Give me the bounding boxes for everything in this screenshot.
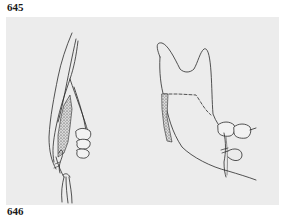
figure-number-645: 645 [7,2,24,13]
illustration-panel [6,17,279,205]
frontal-section-drawing [49,33,91,203]
medical-illustration [6,17,279,205]
lateral-ramus-drawing [157,43,256,180]
figure-number-646: 646 [7,206,24,217]
